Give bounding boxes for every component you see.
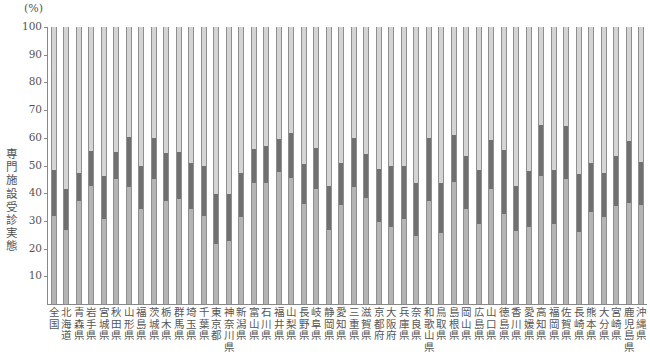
- bar-segment-middle: [602, 173, 606, 217]
- bar-12: [201, 27, 207, 304]
- bar-segment-middle: [539, 125, 543, 176]
- bar-10: [176, 27, 182, 304]
- bar-0: [51, 27, 57, 304]
- stacked-bar-chart: (%) 専門施設受診実態 102030405060708090100 全国北海道…: [0, 0, 650, 357]
- x-tick-label: 徳島県: [498, 307, 510, 342]
- bar-segment-middle: [564, 126, 568, 179]
- bar-segment-middle: [589, 163, 593, 212]
- x-tick-label: 沖縄県: [635, 307, 647, 342]
- bar-segment-middle: [614, 156, 618, 206]
- x-tick-label: 熊本県: [585, 307, 597, 342]
- bar-segment-top: [77, 27, 81, 173]
- bar-39: [538, 27, 544, 304]
- bar-7: [138, 27, 144, 304]
- bar-segment-bottom: [577, 232, 581, 304]
- x-tick-label: 宮崎県: [610, 307, 622, 342]
- x-tick-label: 茨城県: [148, 307, 160, 342]
- bar-segment-top: [252, 27, 256, 149]
- bar-segment-top: [402, 27, 406, 166]
- x-tick-label: 宮城県: [98, 307, 110, 342]
- bar-segment-top: [139, 27, 143, 166]
- bar-segment-bottom: [514, 231, 518, 304]
- bar-segment-bottom: [427, 201, 431, 304]
- y-tick-mark: [44, 221, 48, 222]
- x-tick-label: 山梨県: [285, 307, 297, 342]
- bar-segment-bottom: [102, 219, 106, 304]
- bar-24: [351, 27, 357, 304]
- x-tick-label: 埼玉県: [185, 307, 197, 342]
- bar-segment-top: [464, 27, 468, 156]
- bar-segment-top: [514, 27, 518, 186]
- bar-38: [526, 27, 532, 304]
- x-tick-label: 山口県: [485, 307, 497, 342]
- bar-segment-bottom: [439, 233, 443, 304]
- bar-segment-bottom: [477, 224, 481, 304]
- bar-segment-middle: [152, 138, 156, 180]
- bar-segment-bottom: [264, 183, 268, 304]
- bar-segment-middle: [114, 152, 118, 179]
- bar-segment-bottom: [189, 209, 193, 304]
- bar-segment-middle: [289, 133, 293, 178]
- bar-segment-bottom: [289, 178, 293, 304]
- x-tick-label: 香川県: [510, 307, 522, 342]
- bar-segment-top: [389, 27, 393, 166]
- bar-segment-middle: [477, 170, 481, 224]
- x-tick-label: 滋賀県: [360, 307, 372, 342]
- x-tick-label: 神奈川県: [223, 307, 235, 353]
- bar-segment-top: [289, 27, 293, 133]
- y-tick-label: 50: [12, 159, 42, 171]
- y-tick-label: 70: [12, 103, 42, 115]
- bar-9: [163, 27, 169, 304]
- bar-segment-middle: [264, 146, 268, 183]
- x-tick-label: 岡山県: [460, 307, 472, 342]
- bar-segment-bottom: [202, 216, 206, 304]
- bar-segment-bottom: [552, 224, 556, 304]
- x-tick-label: 大阪府: [385, 307, 397, 342]
- bar-segment-bottom: [314, 189, 318, 304]
- bar-23: [338, 27, 344, 304]
- y-tick-mark: [44, 55, 48, 56]
- y-tick-mark: [44, 276, 48, 277]
- bar-17: [263, 27, 269, 304]
- bar-22: [326, 27, 332, 304]
- bar-segment-top: [277, 27, 281, 139]
- bar-segment-bottom: [339, 205, 343, 304]
- bar-segment-middle: [552, 170, 556, 223]
- bar-segment-bottom: [627, 203, 631, 304]
- bar-segment-bottom: [252, 183, 256, 304]
- y-tick-mark: [44, 166, 48, 167]
- x-tick-label: 福島県: [135, 307, 147, 342]
- bar-segment-bottom: [52, 216, 56, 304]
- y-tick-mark: [44, 138, 48, 139]
- bar-segment-top: [639, 27, 643, 162]
- bar-segment-top: [377, 27, 381, 169]
- bar-segment-top: [627, 27, 631, 141]
- bar-segment-bottom: [464, 209, 468, 304]
- x-tick-label: 福井県: [273, 307, 285, 342]
- bar-segment-top: [177, 27, 181, 152]
- y-tick-label: 30: [12, 214, 42, 226]
- bar-5: [113, 27, 119, 304]
- bar-3: [88, 27, 94, 304]
- bar-13: [213, 27, 219, 304]
- bar-segment-top: [414, 27, 418, 183]
- bar-37: [513, 27, 519, 304]
- bar-segment-middle: [327, 186, 331, 231]
- bar-2: [76, 27, 82, 304]
- bar-segment-middle: [514, 186, 518, 231]
- y-tick-label: 10: [12, 269, 42, 281]
- x-axis-line: [47, 304, 647, 305]
- y-tick-mark: [44, 27, 48, 28]
- bar-segment-middle: [52, 170, 56, 216]
- bar-segment-bottom: [64, 230, 68, 304]
- bar-14: [226, 27, 232, 304]
- x-tick-label: 石川県: [260, 307, 272, 342]
- bar-segment-middle: [627, 141, 631, 203]
- bar-segment-middle: [377, 169, 381, 222]
- bar-segment-bottom: [77, 201, 81, 304]
- bar-15: [238, 27, 244, 304]
- bar-segment-top: [552, 27, 556, 170]
- bar-segment-top: [302, 27, 306, 164]
- x-tick-label: 長野県: [298, 307, 310, 342]
- bar-segment-middle: [227, 194, 231, 241]
